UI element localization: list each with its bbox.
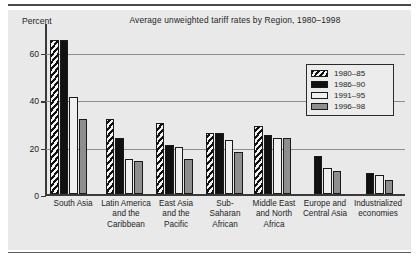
bar <box>283 138 292 195</box>
category-label: South Asia <box>45 199 101 209</box>
y-tick-label: 60 <box>29 49 39 59</box>
bottom-rule <box>8 252 411 253</box>
bar <box>215 133 224 195</box>
bar <box>375 175 384 194</box>
bar <box>366 173 375 194</box>
legend-swatch-1980-85-icon <box>311 70 328 78</box>
bar <box>333 171 342 195</box>
legend-label: 1986–90 <box>334 80 365 89</box>
bar <box>184 159 193 195</box>
category-label: Sub-Saharan African <box>201 199 249 230</box>
bar <box>175 147 184 194</box>
bar <box>106 119 115 195</box>
bar-group <box>101 30 151 194</box>
x-axis-line <box>45 194 405 196</box>
bar <box>314 156 323 194</box>
bar <box>323 168 332 194</box>
bar <box>134 161 143 194</box>
y-tick-label: 20 <box>29 144 39 154</box>
category-label: East Asia and the Pacific <box>151 199 201 230</box>
figure-container: Average unweighted tariff rates by Regio… <box>0 0 419 261</box>
bar <box>254 126 263 195</box>
bar-group <box>45 30 101 194</box>
bar-group <box>151 30 201 194</box>
legend: 1980–85 1986–90 1991–95 1996–98 <box>306 64 394 116</box>
bar <box>125 159 134 195</box>
bar <box>79 119 88 195</box>
top-rule <box>8 4 411 6</box>
category-label: Europe and Central Asia <box>299 199 351 220</box>
bar-group <box>201 30 249 194</box>
y-tick-label: 40 <box>29 96 39 106</box>
bar <box>225 140 234 195</box>
y-tick-label: 0 <box>34 191 39 201</box>
legend-swatch-1986-90-icon <box>311 81 328 89</box>
legend-swatch-1991-95-icon <box>311 92 328 100</box>
legend-swatch-1996-98-icon <box>311 103 328 111</box>
legend-label: 1980–85 <box>334 69 365 78</box>
bar <box>385 180 394 194</box>
legend-label: 1991–95 <box>334 91 365 100</box>
bar <box>273 138 282 195</box>
bar <box>69 97 78 194</box>
bar <box>156 123 165 194</box>
bar <box>50 40 59 194</box>
legend-item: 1996–98 <box>311 101 389 112</box>
bar <box>234 152 243 195</box>
legend-item: 1986–90 <box>311 79 389 90</box>
category-label: Industrialized economies <box>351 199 405 220</box>
bar <box>115 138 124 195</box>
bar <box>264 135 273 194</box>
category-axis-labels: South AsiaLatin America and the Caribbea… <box>45 199 405 230</box>
legend-item: 1991–95 <box>311 90 389 101</box>
y-axis-unit-label: Percent <box>22 16 52 26</box>
category-label: Middle East and North Africa <box>249 199 299 230</box>
bar-group <box>249 30 299 194</box>
category-label: Latin America and the Caribbean <box>101 199 151 230</box>
chart-title: Average unweighted tariff rates by Regio… <box>70 15 400 25</box>
legend-label: 1996–98 <box>334 102 365 111</box>
bar <box>206 133 215 195</box>
bar <box>60 40 69 194</box>
y-tick-mark <box>41 196 46 197</box>
bar <box>165 145 174 195</box>
legend-item: 1980–85 <box>311 68 389 79</box>
